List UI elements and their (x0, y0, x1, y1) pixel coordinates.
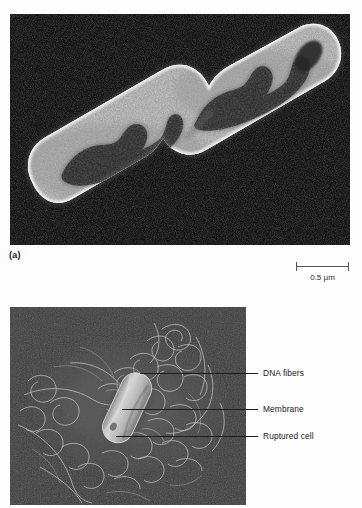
callout-label: Membrane (263, 403, 304, 415)
scale-bar: 0.5 µm (296, 262, 349, 288)
scale-bar-line (296, 266, 349, 267)
callout-leader-line (140, 373, 258, 374)
scale-bar-tick-right (348, 262, 349, 271)
callout-label: Ruptured cell (263, 430, 314, 442)
figure-container: (a) 0.5 µm (0, 0, 362, 508)
panel-b-ruptured-cell-micrograph (10, 307, 246, 505)
sem-micrograph-graphic (10, 307, 246, 505)
scale-bar-label: 0.5 µm (296, 273, 349, 282)
panel-a-label: (a) (9, 250, 21, 260)
callout-leader-line (122, 409, 258, 410)
callout-label: DNA fibers (263, 367, 304, 379)
panel-a-electron-micrograph (10, 14, 350, 245)
tem-micrograph-graphic (10, 14, 350, 245)
callout-leader-line (116, 436, 258, 437)
